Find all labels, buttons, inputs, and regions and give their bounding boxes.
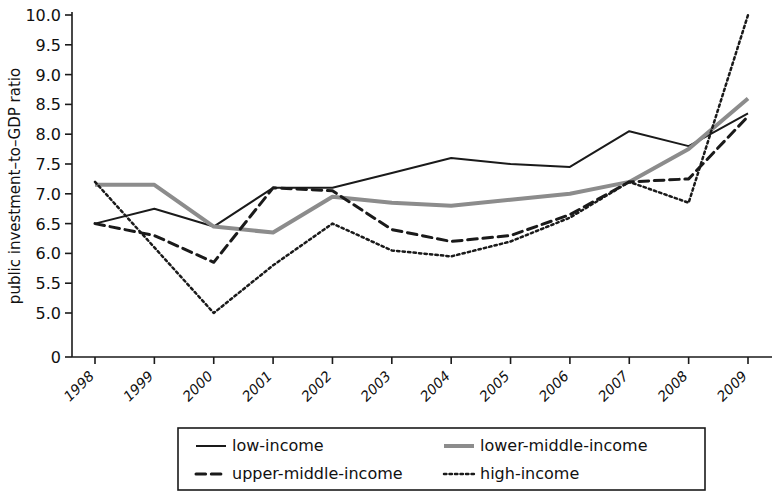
x-tick-label: 2006 (536, 368, 573, 405)
y-tick-label: 0 (51, 348, 61, 367)
line-chart-svg: public investment–to–GDP ratio 10.09.59.… (0, 0, 780, 494)
chart-figure: public investment–to–GDP ratio 10.09.59.… (0, 0, 780, 494)
legend-label-lower-middle-income: lower-middle-income (480, 436, 648, 455)
legend-label-upper-middle-income: upper-middle-income (232, 464, 403, 483)
x-tick-label: 1999 (120, 368, 157, 405)
x-tick-label: 2003 (357, 368, 394, 405)
y-tick-label: 5.0 (36, 304, 61, 323)
y-axis-title-text: public investment–to–GDP ratio (6, 68, 24, 304)
y-tick-label: 5.5 (36, 274, 61, 293)
legend-label-high-income: high-income (480, 464, 579, 483)
x-tick-label: 2004 (417, 368, 454, 405)
x-tick-label: 2000 (179, 368, 216, 405)
y-tick-label: 7.5 (36, 155, 61, 174)
axes (72, 12, 772, 357)
chart-legend: low-incomelower-middle-incomeupper-middl… (178, 428, 705, 490)
x-tick-label: 1998 (61, 368, 98, 405)
y-tick-label: 6.5 (36, 215, 61, 234)
x-tick-label: 2001 (239, 368, 276, 405)
x-tick-label: 2005 (476, 368, 513, 405)
legend-label-low-income: low-income (232, 436, 324, 455)
y-tick-label: 7.0 (36, 185, 61, 204)
y-axis-ticks: 10.09.59.08.58.07.57.06.56.05.55.00 (25, 6, 72, 367)
y-axis-title: public investment–to–GDP ratio (6, 68, 24, 304)
y-tick-label: 9.5 (36, 36, 61, 55)
x-tick-label: 2007 (595, 368, 632, 405)
x-tick-label: 2009 (714, 368, 751, 405)
y-tick-label: 9.0 (36, 66, 61, 85)
series-line-high-income (95, 15, 748, 313)
x-tick-label: 2002 (298, 368, 335, 405)
y-tick-label: 6.0 (36, 244, 61, 263)
x-axis-ticks: 1998199920002001200220032004200520062007… (61, 357, 751, 404)
x-tick-label: 2008 (654, 368, 691, 405)
y-tick-label: 10.0 (25, 6, 61, 25)
y-tick-label: 8.5 (36, 95, 61, 114)
y-tick-label: 8.0 (36, 125, 61, 144)
series-layer (95, 15, 748, 313)
